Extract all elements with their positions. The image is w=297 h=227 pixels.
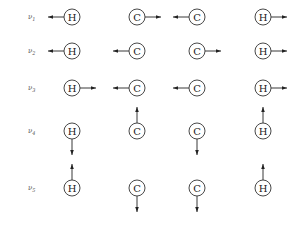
- displacement-arrow-up-icon: [135, 107, 139, 123]
- atom-h: H: [255, 180, 271, 196]
- mode-label: ν2: [28, 47, 35, 56]
- vibrational-modes-diagram: ν1HCCHν2HCCHν3HCCHν4HCCHν5HCCH: [0, 0, 297, 227]
- svg-text:H: H: [68, 12, 77, 23]
- svg-text:C: C: [193, 183, 201, 194]
- atom-c: C: [189, 9, 205, 25]
- displacement-arrow-left-icon: [48, 15, 64, 19]
- atom-h: H: [64, 9, 80, 25]
- displacement-arrow-left-icon: [48, 49, 64, 53]
- svg-text:H: H: [259, 126, 268, 137]
- atom-h: H: [64, 43, 80, 59]
- atom-h: H: [255, 123, 271, 139]
- svg-text:C: C: [133, 12, 141, 23]
- atom-h: H: [64, 80, 80, 96]
- displacement-arrow-down-icon: [135, 196, 139, 212]
- atom-c: C: [129, 9, 145, 25]
- mode-label: ν1: [28, 13, 35, 22]
- atom-c: C: [189, 43, 205, 59]
- mode-label: ν5: [28, 184, 35, 193]
- atom-c: C: [129, 180, 145, 196]
- displacement-arrow-down-icon: [195, 196, 199, 212]
- svg-text:H: H: [259, 46, 268, 57]
- displacement-arrow-down-icon: [195, 139, 199, 155]
- displacement-arrow-right-icon: [80, 86, 96, 90]
- mode-label: ν4: [28, 127, 35, 136]
- displacement-arrow-up-icon: [261, 164, 265, 180]
- svg-text:C: C: [133, 183, 141, 194]
- displacement-arrow-up-icon: [70, 164, 74, 180]
- svg-text:C: C: [133, 83, 141, 94]
- atom-c: C: [189, 180, 205, 196]
- displacement-arrow-right-icon: [271, 86, 287, 90]
- atom-c: C: [189, 80, 205, 96]
- atom-h: H: [64, 123, 80, 139]
- displacement-arrow-right-icon: [271, 15, 287, 19]
- atom-c: C: [129, 80, 145, 96]
- svg-text:H: H: [68, 83, 77, 94]
- displacement-arrow-right-icon: [271, 49, 287, 53]
- mode-row-3: ν3HCCH: [28, 80, 287, 96]
- atom-c: C: [189, 123, 205, 139]
- svg-text:H: H: [259, 183, 268, 194]
- mode-label: ν3: [28, 84, 35, 93]
- mode-row-4: ν4HCCH: [28, 107, 271, 155]
- atom-h: H: [255, 80, 271, 96]
- svg-text:C: C: [133, 46, 141, 57]
- svg-text:H: H: [259, 83, 268, 94]
- displacement-arrow-down-icon: [70, 139, 74, 155]
- displacement-arrow-right-icon: [145, 15, 161, 19]
- svg-text:C: C: [193, 12, 201, 23]
- svg-text:C: C: [193, 83, 201, 94]
- atom-h: H: [255, 43, 271, 59]
- svg-text:H: H: [68, 46, 77, 57]
- svg-text:C: C: [193, 126, 201, 137]
- atom-h: H: [255, 9, 271, 25]
- displacement-arrow-up-icon: [261, 107, 265, 123]
- atom-c: C: [129, 123, 145, 139]
- displacement-arrow-left-icon: [113, 49, 129, 53]
- mode-row-5: ν5HCCH: [28, 164, 271, 212]
- displacement-arrow-left-icon: [173, 15, 189, 19]
- mode-row-1: ν1HCCH: [28, 9, 287, 25]
- mode-row-2: ν2HCCH: [28, 43, 287, 59]
- atom-h: H: [64, 180, 80, 196]
- displacement-arrow-right-icon: [205, 49, 221, 53]
- displacement-arrow-left-icon: [173, 86, 189, 90]
- svg-text:H: H: [259, 12, 268, 23]
- svg-text:C: C: [193, 46, 201, 57]
- atom-c: C: [129, 43, 145, 59]
- svg-text:C: C: [133, 126, 141, 137]
- svg-text:H: H: [68, 126, 77, 137]
- svg-text:H: H: [68, 183, 77, 194]
- displacement-arrow-left-icon: [113, 86, 129, 90]
